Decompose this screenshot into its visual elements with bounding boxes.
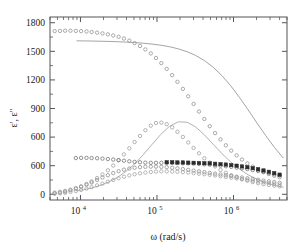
y-tick-label: 600 (31, 161, 46, 171)
x-tick-label: 10 (224, 206, 234, 216)
figure-container: 104105106 0600600900120015001800 ω (rad/… (0, 0, 302, 246)
data-marker (181, 161, 184, 164)
data-marker (224, 163, 227, 166)
data-marker (251, 166, 254, 169)
x-tick-exponent: 4 (83, 204, 87, 211)
data-marker (219, 162, 222, 165)
y-axis-tick-labels: 0600600900120015001800 (26, 18, 45, 200)
data-marker (203, 162, 206, 165)
data-marker (197, 161, 200, 164)
data-marker (240, 165, 243, 168)
y-tick-label: 1800 (26, 18, 45, 28)
data-marker (170, 161, 173, 164)
plot-frame (50, 17, 287, 200)
data-marker (278, 173, 281, 176)
data-marker (262, 169, 265, 172)
data-marker (235, 164, 238, 167)
y-tick-label: 600 (31, 132, 46, 142)
y-axis-title: ε', ε'' (8, 108, 19, 127)
dielectric-spectroscopy-chart: 104105106 0600600900120015001800 ω (rad/… (0, 0, 302, 246)
y-tick-label: 0 (40, 190, 45, 200)
x-tick-exponent: 5 (159, 204, 162, 211)
data-marker (246, 166, 249, 169)
x-tick-label: 10 (71, 206, 81, 216)
y-tick-label: 1500 (26, 47, 45, 57)
y-tick-label: 1200 (26, 75, 45, 85)
x-tick-exponent: 6 (236, 204, 240, 211)
data-marker (213, 162, 216, 165)
x-axis-title: ω (rad/s) (150, 231, 185, 243)
x-axis-tick-labels: 104105106 (71, 204, 240, 216)
data-marker (267, 170, 270, 173)
data-marker (176, 161, 179, 164)
data-marker (192, 161, 195, 164)
data-marker (230, 163, 233, 166)
data-marker (256, 168, 259, 171)
y-tick-label: 900 (31, 104, 46, 114)
data-marker (187, 161, 190, 164)
x-tick-label: 10 (147, 206, 157, 216)
data-marker (165, 161, 168, 164)
data-marker (208, 162, 211, 165)
axes-frame (50, 17, 287, 200)
data-marker (273, 171, 276, 174)
